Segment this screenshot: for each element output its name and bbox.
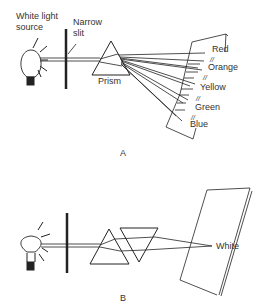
white-label: White <box>216 241 239 251</box>
separator-mark: // <box>203 74 207 81</box>
white-light-beam <box>40 58 100 61</box>
dispersed-rays <box>118 53 205 121</box>
prism-label: Prism <box>98 76 121 86</box>
color-label-green: Green <box>195 102 220 112</box>
caption-b: B <box>120 293 126 303</box>
source-label-line1: White light <box>16 11 58 21</box>
color-label-yellow: Yellow <box>200 82 226 92</box>
color-label-red: Red <box>212 44 229 54</box>
light-bulb-icon <box>21 222 50 270</box>
inverted-prism <box>120 228 158 262</box>
caption-a: A <box>120 148 126 158</box>
slit-label-line2: slit <box>73 28 84 38</box>
color-label-orange: Orange <box>208 62 238 72</box>
separator-mark: // <box>196 95 200 102</box>
color-label-blue: Blue <box>190 119 208 129</box>
slit-label-line1: Narrow <box>73 17 102 27</box>
source-label-line2: source <box>16 22 43 32</box>
light-bulb-icon <box>21 38 48 85</box>
